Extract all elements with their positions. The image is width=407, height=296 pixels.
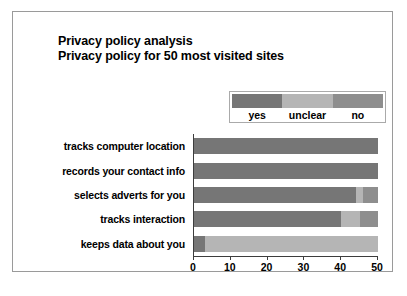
plot-area: tracks computer location records your co… bbox=[41, 134, 381, 282]
category-row: keeps data about you bbox=[41, 232, 191, 256]
x-tick-label: 10 bbox=[224, 261, 236, 273]
bar-segment-yes bbox=[194, 138, 378, 154]
category-label: tracks interaction bbox=[100, 213, 185, 225]
bar-row bbox=[194, 158, 378, 182]
chart-subtitle: Privacy policy for 50 most visited sites bbox=[58, 49, 284, 64]
chart-card: Privacy policy analysis Privacy policy f… bbox=[12, 11, 393, 272]
category-row: records your contact info bbox=[41, 158, 191, 182]
legend-swatch-row bbox=[232, 94, 383, 108]
x-tick-mark bbox=[340, 256, 341, 260]
stacked-bar bbox=[194, 163, 378, 179]
x-tick-mark bbox=[230, 256, 231, 260]
x-tick-label: 30 bbox=[298, 261, 310, 273]
category-label: tracks computer location bbox=[64, 140, 185, 152]
x-tick-label: 0 bbox=[190, 261, 196, 273]
title-block: Privacy policy analysis Privacy policy f… bbox=[58, 34, 284, 65]
bars-region bbox=[193, 134, 378, 256]
bar-segment-unclear bbox=[205, 236, 378, 252]
x-tick-label: 40 bbox=[334, 261, 346, 273]
category-label: records your contact info bbox=[62, 165, 185, 177]
category-row: tracks computer location bbox=[41, 134, 191, 158]
x-axis-line bbox=[193, 256, 377, 257]
x-tick-mark bbox=[193, 256, 194, 260]
x-tick-mark bbox=[303, 256, 304, 260]
bar-row bbox=[194, 207, 378, 231]
bar-segment-yes bbox=[194, 163, 378, 179]
legend-label-no: no bbox=[333, 108, 383, 122]
bar-segment-unclear bbox=[341, 211, 359, 227]
legend-swatch-no bbox=[333, 94, 383, 108]
stacked-bar bbox=[194, 187, 378, 203]
category-axis: tracks computer location records your co… bbox=[41, 134, 191, 256]
bar-segment-unclear bbox=[356, 187, 363, 203]
bar-row bbox=[194, 183, 378, 207]
x-tick-mark bbox=[267, 256, 268, 260]
bar-segment-yes bbox=[194, 236, 205, 252]
bar-row bbox=[194, 232, 378, 256]
page-title: Privacy policy analysis bbox=[58, 34, 284, 49]
legend-label-yes: yes bbox=[232, 108, 282, 122]
category-row: selects adverts for you bbox=[41, 183, 191, 207]
category-label: keeps data about you bbox=[81, 238, 185, 250]
x-tick-label: 20 bbox=[261, 261, 273, 273]
stacked-bar bbox=[194, 138, 378, 154]
legend-label-unclear: unclear bbox=[282, 108, 332, 122]
bar-segment-yes bbox=[194, 211, 341, 227]
category-row: tracks interaction bbox=[41, 207, 191, 231]
bar-segment-no bbox=[360, 211, 378, 227]
chart-legend: yes unclear no bbox=[229, 91, 386, 123]
x-axis: 01020304050 bbox=[193, 256, 377, 282]
legend-swatch-yes bbox=[232, 94, 282, 108]
legend-label-row: yes unclear no bbox=[232, 108, 383, 122]
x-tick-mark bbox=[377, 256, 378, 260]
legend-swatch-unclear bbox=[282, 94, 332, 108]
category-label: selects adverts for you bbox=[74, 189, 185, 201]
bar-row bbox=[194, 134, 378, 158]
x-tick-label: 50 bbox=[371, 261, 383, 273]
bar-segment-no bbox=[363, 187, 378, 203]
bar-segment-yes bbox=[194, 187, 356, 203]
stacked-bar bbox=[194, 236, 378, 252]
stacked-bar bbox=[194, 211, 378, 227]
